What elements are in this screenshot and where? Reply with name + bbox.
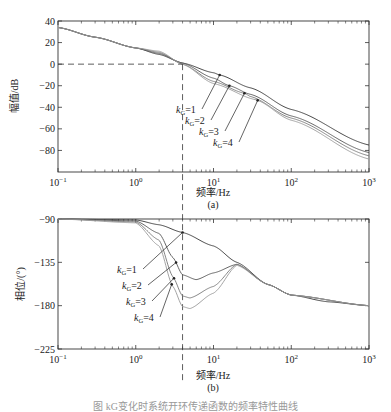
phase-y-ticks: −90−135−180−225 (34, 214, 369, 355)
magnitude-x-axis-title: 频率/Hz (196, 186, 231, 198)
annotation-leader (211, 86, 229, 120)
x-tick-label: 103 (362, 176, 376, 188)
magnitude-panel: 40200−20−40−60−80 10−1100101102103 kG=1k… (8, 16, 376, 383)
annotation-label-kg-2: kG=2 (122, 280, 142, 292)
y-tick-label: −180 (34, 300, 55, 311)
annotation-leader (160, 284, 172, 317)
annotation-leader (152, 278, 174, 301)
annotation-label-kg-4: kG=4 (134, 312, 154, 324)
phase-panel: −90−135−180−225 10−1100101102103 kG=1kG=… (14, 214, 376, 395)
y-tick-label: 40 (45, 16, 55, 27)
y-tick-label: −90 (39, 214, 55, 225)
x-tick-label: 100 (129, 353, 143, 365)
phase-curves (58, 219, 369, 308)
curve-kg-4 (58, 219, 369, 308)
x-tick-label: 100 (129, 176, 143, 188)
bode-plot: 40200−20−40−60−80 10−1100101102103 kG=1k… (0, 0, 391, 412)
phase-x-ticks: 10−1100101102103 (49, 219, 376, 365)
x-tick-label: 10−1 (49, 176, 67, 188)
x-tick-label: 101 (207, 353, 221, 365)
magnitude-plot-frame (58, 21, 369, 172)
x-tick-label: 103 (362, 353, 376, 365)
y-tick-label: −80 (39, 145, 55, 156)
phase-annotations: kG=1kG=2kG=3kG=4 (117, 231, 184, 324)
y-tick-label: −60 (39, 123, 55, 134)
phase-y-axis-title: 相位/(°) (14, 267, 27, 300)
y-tick-label: 20 (45, 37, 55, 48)
y-tick-label: 0 (50, 59, 55, 70)
magnitude-y-axis-title: 幅值/dB (8, 78, 20, 113)
y-tick-label: −20 (39, 80, 55, 91)
panel-label-b: (b) (207, 382, 219, 394)
annotation-point (228, 84, 231, 87)
annotation-leader (239, 100, 258, 142)
y-tick-label: −135 (34, 257, 55, 268)
magnitude-guide-lines (58, 64, 183, 382)
annotation-leader (225, 93, 244, 131)
annotation-label-kg-1: kG=1 (117, 264, 137, 276)
y-tick-label: −40 (39, 102, 55, 113)
figure-caption: 图 kG变化时系统开环传递函数的频率特性曲线 (0, 398, 391, 412)
x-tick-label: 10−1 (49, 353, 67, 365)
panel-label-a: (a) (207, 199, 218, 211)
x-tick-label: 102 (285, 353, 299, 365)
annotation-label-kg-4: kG=4 (213, 137, 233, 149)
magnitude-x-ticks: 10−1100101102103 (49, 21, 376, 188)
phase-x-axis-title: 频率/Hz (196, 369, 231, 381)
annotation-label-kg-3: kG=3 (126, 296, 146, 308)
y-tick-label: −225 (34, 344, 55, 355)
x-tick-label: 102 (285, 176, 299, 188)
annotation-leader (148, 263, 176, 285)
phase-plot-frame (58, 219, 369, 349)
